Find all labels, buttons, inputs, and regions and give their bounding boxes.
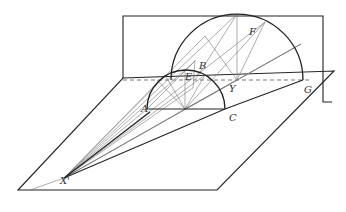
label-f: F — [248, 26, 257, 37]
perspective-diagram: A E B F Y C G X' — [0, 0, 346, 212]
label-b: B — [198, 60, 206, 71]
label-y: Y — [229, 83, 237, 94]
label-g: G — [304, 84, 312, 95]
label-x-prime: X' — [59, 175, 70, 186]
label-a: A — [140, 103, 148, 114]
diagram-canvas: A E B F Y C G X' — [0, 0, 346, 212]
label-c: C — [229, 112, 237, 123]
construction-lines — [30, 14, 301, 190]
label-e: E — [184, 71, 193, 82]
